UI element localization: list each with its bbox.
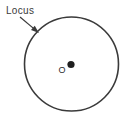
figure-canvas: Locus O <box>0 0 131 127</box>
figure-background <box>0 0 131 127</box>
center-point-label: O <box>58 65 65 75</box>
geometry-figure: Locus O <box>0 0 131 127</box>
locus-label: Locus <box>6 5 34 16</box>
center-point-dot <box>67 61 74 68</box>
